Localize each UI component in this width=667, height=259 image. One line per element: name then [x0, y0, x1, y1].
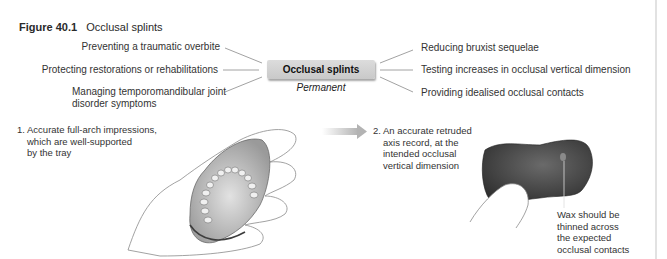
annotation-line-1: Wax should be [557, 209, 629, 221]
step-2-line-2: axis record, at the [373, 137, 472, 149]
figure-number: Figure 40.1 [19, 21, 77, 33]
center-subtitle-permanent: Permanent [267, 82, 375, 93]
center-node-occlusal-splints: Occlusal splints [267, 60, 375, 79]
step-2-text: 2. An accurate retruded axis record, at … [373, 125, 472, 171]
left-item-protecting-restorations: Protecting restorations or rehabilitatio… [42, 64, 218, 76]
tmj-line-2: disorder symptoms [72, 98, 226, 110]
step-1-line-1: 1. Accurate full-arch impressions, [17, 124, 157, 135]
wax-annotation: Wax should be thinned across the expecte… [557, 209, 629, 255]
step-2-line-4: vertical dimension [373, 160, 472, 172]
tmj-line-1: Managing temporomandibular joint [72, 86, 226, 98]
annotation-line-2: thinned across [557, 221, 629, 233]
step-1-text: 1. Accurate full-arch impressions, which… [17, 124, 157, 159]
connector-lines-right [380, 50, 413, 92]
right-arrow-icon [322, 124, 367, 139]
step-2-line-3: intended occlusal [373, 148, 472, 160]
right-item-bruxist-sequelae: Reducing bruxist sequelae [421, 42, 539, 54]
connector-lines-left [223, 48, 262, 92]
left-item-tmj-symptoms: Managing temporomandibular joint disorde… [72, 86, 226, 110]
right-item-testing-ovd: Testing increases in occlusal vertical d… [421, 64, 631, 76]
figure-caption: Figure 40.1 Occlusal splints [19, 21, 163, 33]
step-1-line-2: which are well-supported [17, 136, 157, 148]
annotation-line-3: the expected [557, 232, 629, 244]
step-2-line-1: 2. An accurate retruded [373, 125, 472, 136]
page-margin-rule [655, 0, 657, 259]
right-item-idealised-contacts: Providing idealised occlusal contacts [421, 87, 584, 99]
left-item-traumatic-overbite: Preventing a traumatic overbite [82, 41, 220, 53]
step-1-line-3: by the tray [17, 147, 157, 159]
annotation-line-4: occlusal contacts [557, 244, 629, 256]
figure-title: Occlusal splints [86, 21, 162, 33]
